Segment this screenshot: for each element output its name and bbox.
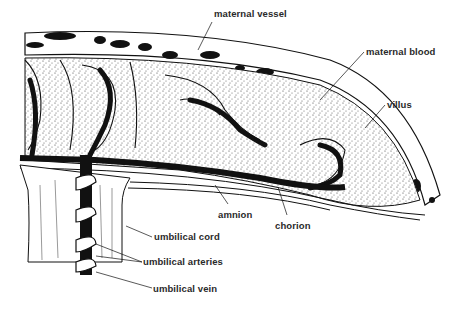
umbilical-cord — [20, 165, 130, 262]
label-maternal-blood: maternal blood — [366, 46, 436, 57]
label-villus: villus — [387, 99, 412, 110]
label-amnion: amnion — [218, 209, 252, 220]
label-umbilical-cord: umbilical cord — [154, 231, 220, 242]
placenta-diagram: maternal vessel maternal blood villus am… — [0, 0, 463, 310]
label-umbilical-vein: umbilical vein — [153, 283, 217, 294]
label-maternal-vessel: maternal vessel — [214, 8, 287, 19]
label-umbilical-arteries: umbilical arteries — [143, 256, 223, 267]
label-chorion: chorion — [275, 220, 311, 231]
